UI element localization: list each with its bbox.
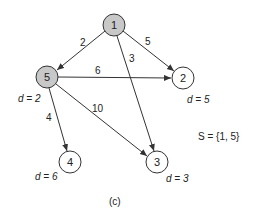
edges: [49, 31, 174, 156]
visited-set-label: S = {1, 5}: [198, 131, 240, 142]
node-4: 4: [59, 151, 81, 173]
figure-caption: (c): [109, 196, 121, 207]
node-5: 5: [36, 66, 58, 88]
node-2-label: 2: [180, 72, 186, 84]
node-1-label: 1: [111, 19, 117, 31]
node-3: 3: [146, 151, 168, 173]
edge-weights: 2 5 3 6 10 4: [46, 36, 151, 123]
node-3-label: 3: [154, 156, 160, 168]
weight-1-3: 3: [129, 53, 135, 64]
edge-1-3: [117, 36, 154, 151]
node-1: 1: [103, 14, 125, 36]
dist-node-2: d = 5: [187, 94, 210, 105]
weight-5-2: 6: [95, 65, 101, 76]
dist-node-3: d = 3: [166, 173, 189, 184]
weight-1-2: 5: [145, 36, 151, 47]
edge-5-3: [56, 84, 147, 156]
dist-node-4: d = 6: [35, 171, 58, 182]
weight-5-3: 10: [92, 103, 104, 114]
node-2: 2: [172, 67, 194, 89]
weight-1-5: 2: [80, 37, 86, 48]
node-4-label: 4: [67, 156, 73, 168]
edge-5-2: [58, 77, 171, 78]
edge-5-4: [49, 88, 67, 151]
weight-5-4: 4: [46, 112, 52, 123]
distance-labels: d = 2 d = 5 d = 6 d = 3: [18, 93, 210, 184]
graph-diagram: 2 5 3 6 10 4 1 5 2 4 3 d = 2 d = 5 d = 6…: [0, 0, 257, 215]
dist-node-5: d = 2: [18, 93, 41, 104]
node-5-label: 5: [44, 71, 50, 83]
